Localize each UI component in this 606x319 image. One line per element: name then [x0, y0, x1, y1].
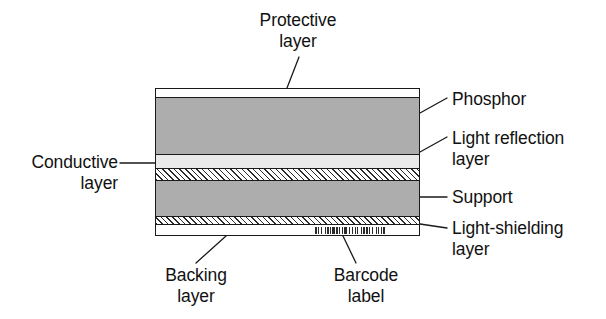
- leader-protective: [287, 57, 299, 88]
- callout-backing-layer: Backing layer: [126, 265, 266, 307]
- callout-conductive-layer: Conductive layer: [0, 152, 118, 194]
- leader-light-shielding: [420, 224, 447, 228]
- layer-light-reflection: [156, 155, 419, 169]
- diagram-canvas: Protective layer Phosphor Light reflecti…: [0, 0, 606, 319]
- callout-phosphor: Phosphor: [452, 89, 602, 110]
- leader-barcode: [343, 236, 356, 263]
- layer-protective: [156, 89, 419, 98]
- leader-light-reflection: [420, 137, 447, 152]
- callout-support: Support: [452, 187, 602, 208]
- barcode-label: [315, 227, 385, 234]
- callout-protective-layer: Protective layer: [223, 10, 373, 52]
- layer-phosphor: [156, 98, 419, 155]
- layer-support: [156, 181, 419, 218]
- callout-light-shielding-layer: Light-shielding layer: [452, 218, 606, 260]
- callout-barcode-label: Barcode label: [296, 265, 436, 307]
- leader-phosphor: [420, 98, 447, 113]
- callout-light-reflection-layer: Light reflection layer: [452, 128, 604, 170]
- layer-light-shielding: [156, 217, 419, 225]
- leader-backing: [196, 236, 226, 263]
- layer-conductive: [156, 169, 419, 181]
- barcode-bar: [383, 227, 385, 234]
- imaging-plate-cross-section: [155, 88, 420, 236]
